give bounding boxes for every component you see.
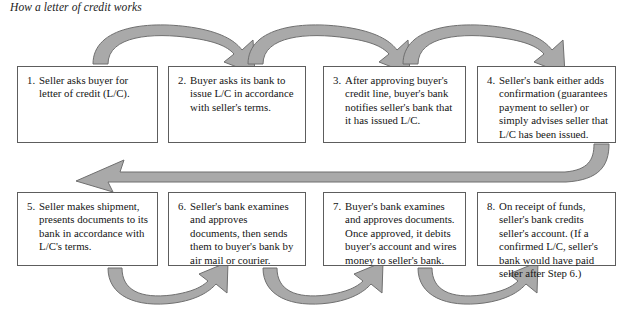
step-number-5: 5. <box>27 200 35 213</box>
step-box-7: 7. Buyer's bank examines and approves do… <box>323 192 466 266</box>
step-text-3: After approving buyer's credit line, buy… <box>345 74 458 128</box>
step-number-4: 4. <box>487 74 495 87</box>
letter-of-credit-diagram: How a letter of credit works <box>0 0 632 312</box>
step-text-4: Seller's bank either adds confirmation (… <box>499 74 608 141</box>
step-text-2: Buyer asks its bank to issue L/C in acco… <box>190 74 298 114</box>
arrow-step-5-to-6 <box>108 262 228 304</box>
step-box-3: 3. After approving buyer's credit line, … <box>323 66 466 143</box>
step-text-6: Seller's bank examines and approves docu… <box>190 200 298 267</box>
step-box-4: 4. Seller's bank either adds confirmatio… <box>477 66 616 143</box>
step-text-7: Buyer's bank examines and approves docum… <box>345 200 458 267</box>
arrow-step-6-to-7 <box>263 262 383 304</box>
step-text-5: Seller makes shipment, presents document… <box>39 200 150 254</box>
step-box-1: 1. Seller asks buyer for letter of credi… <box>17 66 158 143</box>
step-text-1: Seller asks buyer for letter of credit (… <box>39 74 150 101</box>
step-number-8: 8. <box>487 200 495 213</box>
step-box-5: 5. Seller makes shipment, presents docum… <box>17 192 158 266</box>
arrow-step-4-to-5 <box>76 144 609 192</box>
step-box-6: 6. Seller's bank examines and approves d… <box>168 192 306 266</box>
step-number-3: 3. <box>333 74 341 87</box>
step-number-1: 1. <box>27 74 35 87</box>
step-number-6: 6. <box>178 200 186 213</box>
step-text-8: On receipt of funds, seller's bank credi… <box>499 200 608 280</box>
step-number-7: 7. <box>333 200 341 213</box>
step-number-2: 2. <box>178 74 186 87</box>
step-box-2: 2. Buyer asks its bank to issue L/C in a… <box>168 66 306 143</box>
step-box-8: 8. On receipt of funds, seller's bank cr… <box>477 192 616 266</box>
